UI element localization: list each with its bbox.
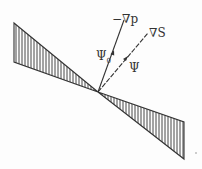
psi-0-subscript: 0: [107, 57, 111, 65]
psi-0-label: Ψ0: [96, 49, 111, 65]
right-hatched-wedge: [98, 0, 184, 169]
grad-s-label: ∇S: [149, 26, 166, 40]
diagram-canvas: −∇p ∇S Ψ0 Ψ: [0, 0, 202, 169]
psi-0-symbol: Ψ: [96, 49, 107, 63]
neg-grad-p-label: −∇p: [112, 12, 138, 26]
stray-dot: [195, 152, 196, 153]
left-hatched-wedge: [14, 0, 98, 169]
arrowhead-icon: [123, 56, 128, 61]
wedge-diagram: −∇p ∇S Ψ0 Ψ: [0, 0, 202, 169]
psi-label: Ψ: [129, 61, 140, 75]
